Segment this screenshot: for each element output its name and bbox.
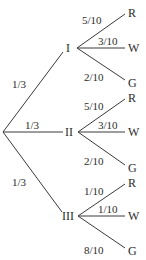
branch-prob-III-G: 8/10	[84, 244, 104, 256]
node-label-III: III	[62, 209, 74, 223]
leaf-label-II-G: G	[128, 161, 137, 175]
leaf-label-II-R: R	[128, 91, 136, 105]
leaf-label-II-W: W	[128, 125, 140, 139]
leaf-label-III-W: W	[128, 209, 140, 223]
branch-prob-I: 1/3	[12, 78, 27, 90]
branch-prob-II-R: 5/10	[84, 100, 104, 112]
leaf-label-I-R: R	[128, 6, 136, 20]
branch-prob-II: 1/3	[25, 119, 40, 131]
branch-prob-III-W: 1/10	[98, 203, 118, 215]
branch-prob-I-G: 2/10	[84, 71, 104, 83]
branch-prob-I-W: 3/10	[98, 35, 118, 47]
edge-root-to-III	[3, 132, 62, 212]
leaf-label-I-W: W	[128, 41, 140, 55]
branch-prob-I-R: 5/10	[82, 14, 102, 26]
branch-prob-II-W: 3/10	[98, 119, 118, 131]
leaf-label-I-G: G	[128, 76, 137, 90]
node-label-II: II	[65, 125, 73, 139]
branch-prob-II-G: 2/10	[84, 155, 104, 167]
probability-tree-diagram: 1/3I5/10R3/10W2/10G1/3II5/10R3/10W2/10G1…	[0, 0, 146, 260]
leaf-label-III-R: R	[128, 176, 136, 190]
node-label-I: I	[66, 41, 70, 55]
branch-prob-III-R: 1/10	[84, 185, 104, 197]
branch-prob-III: 1/3	[12, 176, 27, 188]
leaf-label-III-G: G	[128, 244, 137, 258]
